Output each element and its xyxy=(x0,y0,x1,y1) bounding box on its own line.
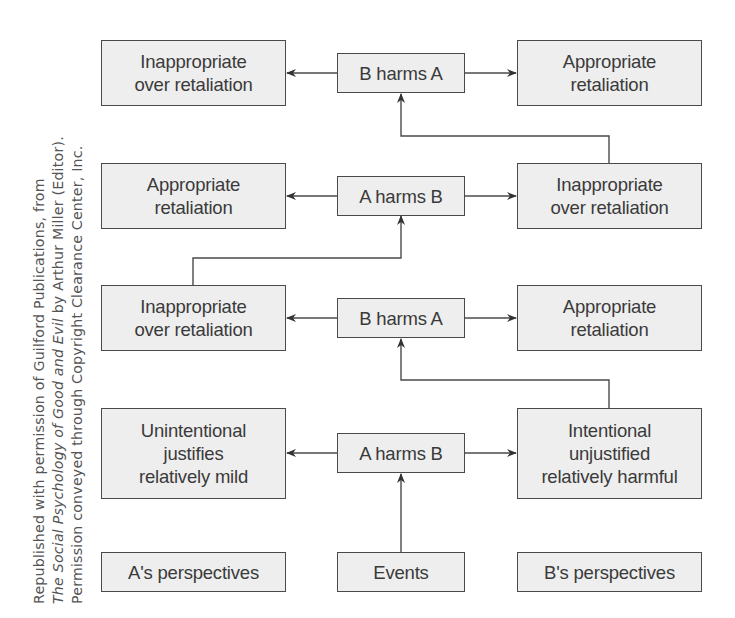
box-event-b-harms-a-1: B harms A xyxy=(337,298,465,338)
box-a-inappropriate-over-retaliation-1: Inappropriate over retaliation xyxy=(101,40,286,106)
box-a-unintentional-justifies: Unintentional justifies relatively mild xyxy=(101,408,286,499)
box-b-appropriate-retaliation-1: Appropriate retaliation xyxy=(517,285,702,351)
label-a-perspectives: A's perspectives xyxy=(101,552,286,592)
box-event-b-harms-a-2: B harms A xyxy=(337,53,465,93)
box-a-appropriate-retaliation: Appropriate retaliation xyxy=(101,163,286,229)
box-b-inappropriate-over-retaliation: Inappropriate over retaliation xyxy=(517,163,702,229)
box-b-intentional-unjustified: Intentional unjustified relatively harmf… xyxy=(517,408,702,499)
label-events: Events xyxy=(337,552,465,592)
label-b-perspectives: B's perspectives xyxy=(517,552,702,592)
box-b-appropriate-retaliation-2: Appropriate retaliation xyxy=(517,40,702,106)
box-event-a-harms-b-2: A harms B xyxy=(337,176,465,216)
box-event-a-harms-b-1: A harms B xyxy=(337,433,465,473)
box-a-inappropriate-over-retaliation-2: Inappropriate over retaliation xyxy=(101,285,286,351)
